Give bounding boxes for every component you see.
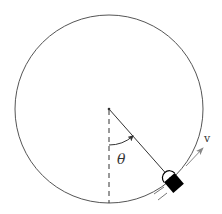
motion-streak [158, 193, 167, 200]
velocity-arrow [186, 148, 203, 166]
moving-object [160, 168, 184, 193]
diagram-canvas: θ v [0, 0, 222, 214]
velocity-label: v [203, 132, 211, 145]
circular-motion-diagram: θ v [0, 0, 222, 214]
angle-label: θ [117, 151, 126, 167]
angle-arc [109, 136, 133, 145]
